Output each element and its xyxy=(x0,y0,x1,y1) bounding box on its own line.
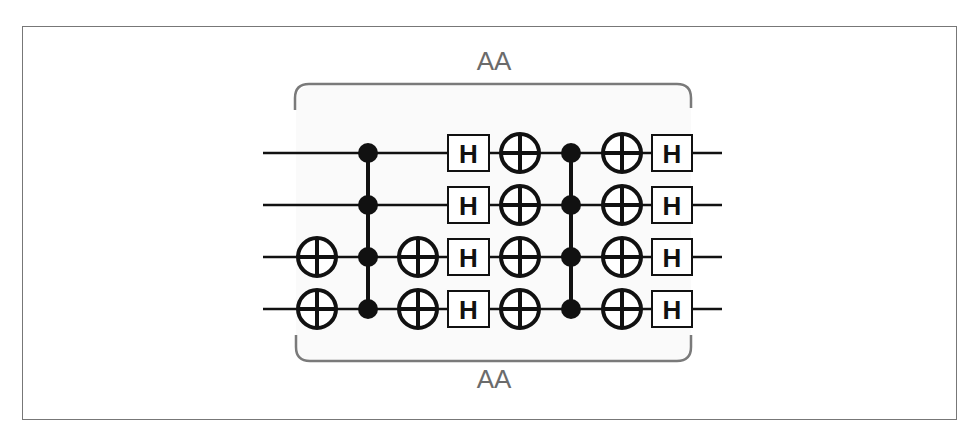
control-dot-icon xyxy=(358,195,378,215)
control-dot-icon xyxy=(561,143,581,163)
hadamard-gate: H xyxy=(448,187,489,223)
oplus-icon xyxy=(501,186,539,224)
oplus-icon xyxy=(603,134,641,172)
control-dot-icon xyxy=(358,299,378,319)
oplus-icon xyxy=(501,238,539,276)
control-dot-icon xyxy=(561,195,581,215)
hadamard-gate: H xyxy=(652,135,692,171)
oplus-icon xyxy=(603,238,641,276)
control-dot-icon xyxy=(561,247,581,267)
top-bracket-label: AA xyxy=(454,48,534,74)
hadamard-gate: H xyxy=(448,291,489,327)
bottom-bracket-label: AA xyxy=(454,366,534,392)
hadamard-gate: H xyxy=(448,239,489,275)
oplus-icon xyxy=(603,290,641,328)
gate-label: H xyxy=(663,295,682,325)
oplus-icon xyxy=(501,134,539,172)
gate-label: H xyxy=(663,243,682,273)
oplus-icon xyxy=(298,238,336,276)
oplus-icon xyxy=(399,290,437,328)
gate-label: H xyxy=(459,295,478,325)
gate-label: H xyxy=(459,191,478,221)
hadamard-gate: H xyxy=(448,135,489,171)
oplus-icon xyxy=(501,290,539,328)
oplus-icon xyxy=(603,186,641,224)
gate-label: H xyxy=(459,243,478,273)
control-dot-icon xyxy=(358,247,378,267)
gate-label: H xyxy=(459,139,478,169)
control-dot-icon xyxy=(358,143,378,163)
control-dot-icon xyxy=(561,299,581,319)
hadamard-gate: H xyxy=(652,291,692,327)
oplus-icon xyxy=(298,290,336,328)
gate-label: H xyxy=(663,139,682,169)
gate-label: H xyxy=(663,191,682,221)
hadamard-gate: H xyxy=(652,187,692,223)
oplus-icon xyxy=(399,238,437,276)
hadamard-gate: H xyxy=(652,239,692,275)
